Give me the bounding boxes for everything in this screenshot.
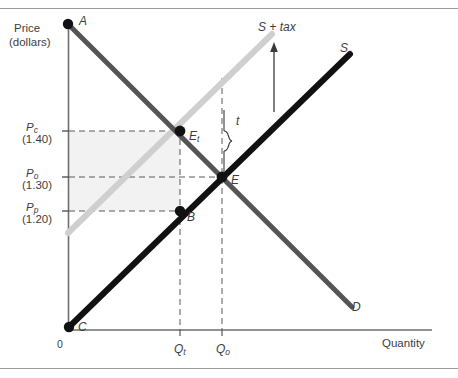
y-axis-label-line2: (dollars) (9, 36, 51, 50)
price-label-pp-value: (1.20) (22, 213, 52, 227)
point-A-label: A (79, 14, 87, 28)
point-Et-label-subscript: t (197, 134, 199, 144)
demand-label: D (352, 300, 361, 314)
price-label-pp-symbol: P (26, 201, 34, 213)
point-Et-dot (175, 126, 186, 137)
point-B-label: B (187, 210, 195, 224)
point-B-dot (175, 206, 185, 216)
price-label-pc-symbol: P (26, 121, 34, 133)
point-C-dot (64, 322, 74, 332)
supply-plus-tax-label: S + tax (258, 20, 296, 34)
y-axis-label-line1: Price (14, 22, 40, 36)
quantity-label-qo: Qo (216, 339, 230, 358)
x-axis-label: Quantity (382, 337, 425, 351)
supply-shift-arrow-head (270, 42, 278, 52)
figure-root: Price (dollars) Quantity 0 Pc (1.40) Po … (0, 0, 458, 378)
quantity-label-qo-subscript: o (225, 347, 230, 357)
point-Et-label-symbol: E (189, 129, 197, 143)
point-Et-label: Et (189, 126, 199, 145)
supply-demand-chart (0, 0, 458, 378)
price-label-po-symbol: P (26, 167, 34, 179)
price-label-po-value: (1.30) (22, 179, 52, 193)
supply-label: S (340, 41, 348, 55)
quantity-label-qo-symbol: Q (216, 342, 225, 356)
quantity-label-qt-subscript: t (183, 347, 185, 357)
quantity-label-qt: Qt (174, 339, 186, 358)
price-label-pc-value: (1.40) (22, 133, 52, 147)
tax-bracket (224, 131, 232, 151)
tax-bracket-label: t (236, 114, 239, 128)
origin-label: 0 (57, 338, 63, 350)
point-A-dot (63, 19, 73, 29)
point-C-label: C (78, 320, 87, 334)
quantity-label-qt-symbol: Q (174, 342, 183, 356)
point-E-label: E (231, 173, 239, 187)
point-E-dot (217, 172, 228, 183)
